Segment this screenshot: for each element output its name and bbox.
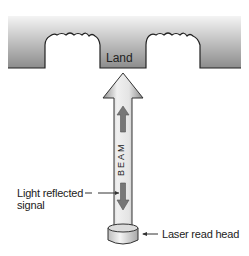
beam-label: BEAM — [116, 142, 126, 176]
laser-read-head — [108, 224, 138, 244]
reflected-signal-label: Light reflected signal — [17, 187, 83, 211]
diagram-canvas — [0, 0, 249, 256]
laser-head-label: Laser read head — [162, 228, 239, 240]
reflected-signal-label-line1: Light reflected — [17, 187, 83, 199]
reflected-signal-label-line2: signal — [17, 199, 83, 211]
land-label: Land — [106, 51, 133, 65]
